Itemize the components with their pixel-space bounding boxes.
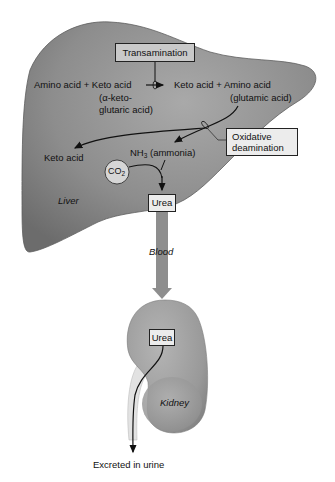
keto-acid-label: Keto acid [44,153,84,163]
reactant-note-line1: (α-keto- [99,93,132,103]
oxidative-deamination-box: Oxidative deamination [226,128,298,156]
deamination-label: deamination [232,143,284,153]
excretion-label: Excreted in urine [93,460,164,470]
transamination-label: Transamination [122,48,187,58]
oxidative-label: Oxidative [232,132,272,142]
reactant-note-line2: glutaric acid) [99,105,153,115]
co2-label: CO2 [108,167,125,176]
urea-liver-box: Urea [148,194,176,212]
reactants-label: Amino acid + Keto acid [34,80,131,90]
urea-kidney-box: Urea [149,329,175,346]
product-note: (glutamic acid) [230,93,292,103]
products-label: Keto acid + Amino acid [174,80,271,90]
diagram-canvas [0,0,335,482]
transamination-box: Transamination [115,43,195,62]
liver-label: Liver [58,196,79,206]
blood-arrow-head [152,288,172,299]
kidney-label: Kidney [160,398,189,408]
nh3-label: NH3 (ammonia) [130,148,195,158]
blood-label: Blood [149,247,173,257]
